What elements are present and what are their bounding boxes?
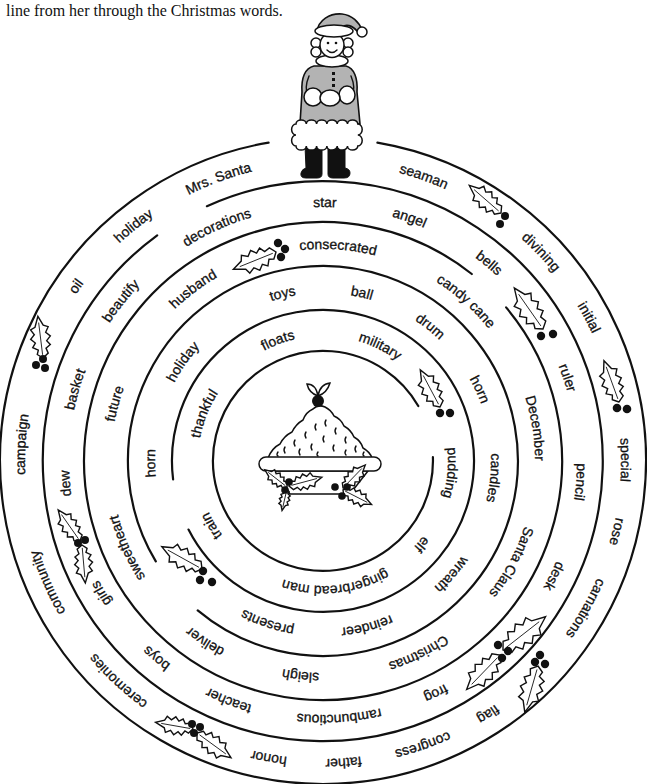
maze-word-label: ruler xyxy=(556,361,580,393)
maze-word-label: dew xyxy=(56,469,74,497)
maze-word: elf xyxy=(411,534,433,556)
maze-word: community xyxy=(26,549,68,618)
maze-word: floats xyxy=(258,326,296,353)
maze-word: rambunctious xyxy=(296,705,384,728)
maze-word: gingerbread man xyxy=(280,567,392,600)
maze-word: pencil xyxy=(571,463,590,501)
maze-word-label: elf xyxy=(411,534,433,556)
maze-word-label: pudding xyxy=(440,447,461,501)
maze-word: horn xyxy=(467,373,493,406)
maze-word-label: girls xyxy=(87,578,114,609)
maze-word: deliver xyxy=(182,624,226,661)
maze-word: frog xyxy=(422,681,451,706)
maze-word: rose xyxy=(606,517,628,548)
maze-word-label: carnations xyxy=(563,577,609,642)
maze-word: December xyxy=(522,394,548,462)
maze-word: husband xyxy=(166,266,219,312)
maze-word-label: decorations xyxy=(179,205,253,250)
maze-word-label: flag xyxy=(475,702,503,728)
maze-word: drum xyxy=(413,309,448,342)
maze-word: star xyxy=(313,194,337,210)
maze-word-label: boys xyxy=(139,643,172,675)
maze-word-label: desk xyxy=(540,560,568,595)
maze-word-label: rose xyxy=(606,517,628,548)
maze-word-label: star xyxy=(313,194,337,210)
maze-word-label: seaman xyxy=(398,160,451,192)
maze-word-label: presents xyxy=(238,607,295,640)
maze-word: sleigh xyxy=(281,666,320,686)
maze-word: girls xyxy=(87,578,114,609)
maze-word: ceremonies xyxy=(85,651,150,713)
holly-icon xyxy=(505,281,558,340)
maze-word-label: pencil xyxy=(571,463,590,501)
circular-word-maze: Mrs. Santa holiday oil campaign communit… xyxy=(0,0,647,784)
maze-word-label: future xyxy=(102,383,127,423)
holly-icon xyxy=(156,537,216,586)
maze-word: initial xyxy=(575,299,604,335)
maze-word: toys xyxy=(267,282,296,304)
holly-icon xyxy=(463,178,509,228)
maze-word-label: thankful xyxy=(187,386,220,439)
maze-word-label: husband xyxy=(166,266,219,312)
maze-word-label: bells xyxy=(473,247,506,278)
maze-word-label: ceremonies xyxy=(85,651,150,713)
maze-word: carnations xyxy=(563,577,609,642)
maze-word: candles xyxy=(483,453,504,504)
maze-word: campaign xyxy=(12,413,32,476)
maze-word-label: teacher xyxy=(202,685,252,717)
maze-word-label: candy cane xyxy=(434,271,499,332)
maze-word-label: honor xyxy=(249,747,288,769)
maze-word-label: ball xyxy=(350,282,375,303)
holly-icon xyxy=(51,505,94,584)
maze-word: presents xyxy=(238,607,295,640)
christmas-pudding-icon xyxy=(259,383,381,512)
maze-word-label: community xyxy=(26,549,68,618)
maze-word-label: oil xyxy=(65,276,86,297)
maze-word-label: father xyxy=(325,754,363,772)
maze-word: bells xyxy=(473,247,506,278)
maze-word-label: angel xyxy=(391,204,429,231)
maze-word-label: basket xyxy=(61,366,88,411)
maze-word-label: Santa Claus xyxy=(486,525,537,601)
maze-word: ruler xyxy=(556,361,580,393)
maze-word: dew xyxy=(56,469,74,497)
maze-word: pudding xyxy=(440,447,461,501)
maze-word: teacher xyxy=(202,685,252,717)
mrs-santa-icon xyxy=(292,14,367,178)
maze-word: consecrated xyxy=(299,236,379,259)
maze-word-label: deliver xyxy=(182,624,226,661)
maze-word: honor xyxy=(249,747,288,769)
maze-word: decorations xyxy=(179,205,253,250)
maze-word: oil xyxy=(65,276,86,297)
maze-word-label: gingerbread man xyxy=(280,567,392,600)
holly-icon xyxy=(229,239,289,280)
maze-word-label: toys xyxy=(267,282,296,304)
maze-word-label: special xyxy=(617,437,634,482)
maze-word: congress xyxy=(394,729,454,763)
maze-word-label: reindeer xyxy=(340,612,395,641)
holly-icon xyxy=(411,365,454,417)
maze-word: special xyxy=(617,437,634,482)
maze-word-label: horn xyxy=(142,449,159,478)
maze-word: seaman xyxy=(398,160,451,192)
maze-word-label: initial xyxy=(575,299,604,335)
maze-word: train xyxy=(197,510,225,542)
maze-word-label: frog xyxy=(422,681,451,706)
maze-word: boys xyxy=(139,643,172,675)
holly-icon xyxy=(594,357,631,413)
maze-word: candy cane xyxy=(434,271,499,332)
maze-word-label: consecrated xyxy=(299,236,379,259)
maze-word: Santa Claus xyxy=(486,525,537,601)
maze-word-label: drum xyxy=(413,309,448,342)
maze-word: horn xyxy=(142,449,159,478)
maze-word: father xyxy=(325,754,363,772)
maze-word: thankful xyxy=(187,386,220,439)
maze-word-label: campaign xyxy=(12,413,32,476)
maze-word-label: congress xyxy=(394,729,454,763)
maze-word: reindeer xyxy=(340,612,395,641)
maze-word-label: December xyxy=(522,394,548,462)
maze-word: flag xyxy=(475,702,503,728)
maze-word: basket xyxy=(61,366,88,411)
maze-word: desk xyxy=(540,560,568,595)
maze-word-label: rambunctious xyxy=(296,705,384,728)
